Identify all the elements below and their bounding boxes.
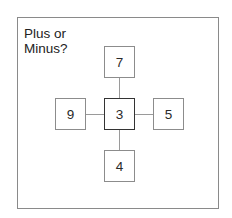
puzzle-title: Plus or Minus? <box>24 26 68 56</box>
connector-top <box>119 78 120 98</box>
connector-bottom <box>119 130 120 150</box>
box-right: 5 <box>153 98 184 130</box>
box-left: 9 <box>55 98 86 130</box>
connector-left <box>86 114 104 115</box>
box-center: 3 <box>104 98 135 130</box>
connector-right <box>135 114 153 115</box>
box-top: 7 <box>104 46 135 78</box>
box-bottom: 4 <box>104 150 135 182</box>
